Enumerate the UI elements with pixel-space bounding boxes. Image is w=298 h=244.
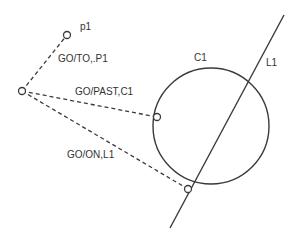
point-label-p1: p1 (80, 21, 92, 32)
past-c1-marker-icon (154, 114, 161, 121)
origin-marker-icon (19, 88, 26, 95)
on-l1-marker-icon (185, 186, 192, 193)
path-label-go-to: GO/TO,.P1 (58, 53, 108, 64)
motion-diagram: p1 C1 L1 GO/TO,.P1 GO/PAST,C1 GO/ON,L1 (0, 0, 298, 244)
circle-c1 (153, 68, 269, 184)
path-label-go-on: GO/ON,L1 (67, 149, 115, 160)
path-label-go-past: GO/PAST,C1 (75, 86, 134, 97)
path-go-on-l1 (22, 91, 188, 189)
p1-marker-icon (64, 32, 71, 39)
diagram-canvas: p1 C1 L1 GO/TO,.P1 GO/PAST,C1 GO/ON,L1 (0, 0, 298, 244)
circle-label-c1: C1 (194, 52, 207, 63)
line-l1 (170, 15, 284, 228)
line-label-l1: L1 (266, 57, 278, 68)
